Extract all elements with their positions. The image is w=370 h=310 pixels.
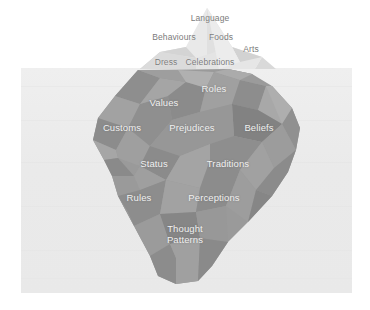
- label-beliefs: Beliefs: [244, 122, 273, 133]
- label-foods: Foods: [209, 32, 233, 42]
- label-thought-patterns: Thought Patterns: [167, 223, 203, 245]
- label-thought-patterns-line2: Patterns: [167, 234, 203, 245]
- label-language: Language: [191, 13, 230, 23]
- label-behaviours: Behaviours: [152, 32, 196, 42]
- label-rules: Rules: [127, 192, 152, 203]
- iceberg-figure: Language Behaviours Foods Arts Dress Cel…: [0, 0, 370, 310]
- label-traditions: Traditions: [207, 158, 249, 169]
- label-values: Values: [150, 97, 179, 108]
- iceberg-illustration: [0, 0, 370, 310]
- label-customs: Customs: [103, 122, 141, 133]
- label-thought-patterns-line1: Thought: [167, 223, 203, 234]
- label-roles: Roles: [202, 83, 227, 94]
- label-prejudices: Prejudices: [169, 122, 214, 133]
- label-status: Status: [140, 158, 168, 169]
- label-dress: Dress: [155, 57, 178, 67]
- label-arts: Arts: [243, 44, 259, 54]
- label-celebrations: Celebrations: [186, 57, 235, 67]
- label-perceptions: Perceptions: [188, 192, 239, 203]
